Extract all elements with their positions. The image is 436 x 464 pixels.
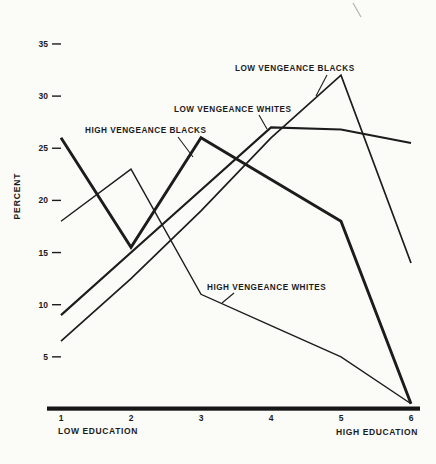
y-axis-title: PERCENT (12, 173, 22, 220)
label-low-vengeance-whites: LOW VENGEANCE WHITES (174, 105, 291, 114)
x-axis-caption-right: HIGH EDUCATION (336, 427, 418, 437)
label-high-vengeance-blacks: HIGH VENGEANCE BLACKS (85, 126, 207, 135)
y-tick-label-5: 5 (43, 352, 48, 362)
y-tick-label-30: 30 (39, 91, 49, 101)
x-tick-label-4: 4 (269, 413, 274, 423)
label-high-vengeance-whites: HIGH VENGEANCE WHITES (207, 283, 326, 292)
y-tick-label-10: 10 (39, 300, 49, 310)
x-axis-caption-left: LOW EDUCATION (58, 426, 138, 436)
chart-canvas: PERCENT 5101520253035 HIGH VENGEANCE BLA… (0, 0, 436, 464)
series-lines (61, 75, 411, 404)
series-line-high-vengeance-blacks (61, 138, 411, 404)
vengeance-education-line-chart: PERCENT 5101520253035 HIGH VENGEANCE BLA… (0, 0, 436, 464)
x-tick-label-3: 3 (199, 413, 204, 423)
y-tick-label-20: 20 (39, 195, 49, 205)
x-tick-label-6: 6 (409, 413, 414, 423)
series-line-low-vengeance-blacks (61, 75, 411, 341)
y-tick-label-15: 15 (39, 248, 49, 258)
leader-high-vengeance-whites (222, 293, 234, 303)
x-tick-label-1: 1 (59, 413, 64, 423)
x-axis-ticks: 123456 (59, 413, 414, 423)
leader-high-vengeance-blacks (178, 137, 193, 157)
x-tick-label-5: 5 (339, 413, 344, 423)
leader-low-vengeance-whites (259, 115, 267, 129)
label-low-vengeance-blacks: LOW VENGEANCE BLACKS (235, 64, 355, 73)
x-axis-line (47, 407, 420, 411)
y-tick-label-35: 35 (39, 39, 49, 49)
x-tick-label-2: 2 (129, 413, 134, 423)
scan-artifact-mark (353, 3, 361, 17)
y-tick-label-25: 25 (39, 143, 49, 153)
y-axis-ticks: 5101520253035 (39, 39, 61, 362)
